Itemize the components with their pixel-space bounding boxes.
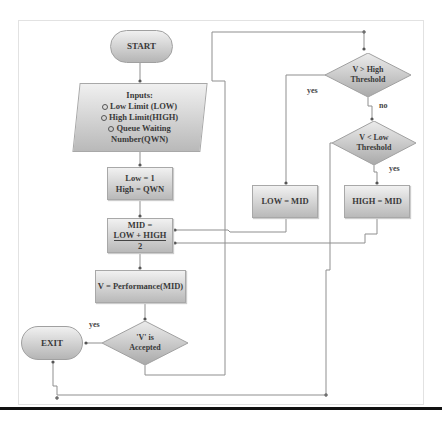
low-threshold-line1: V < Low (359, 133, 388, 143)
inputs-parallelogram: Inputs: Low Limit (LOW) High Limit(HIGH)… (72, 83, 207, 152)
input-item-low-limit: Low Limit (LOW) (102, 101, 177, 112)
performance-process-box: V = Performance(MID) (95, 270, 186, 303)
start-terminator: START (110, 30, 173, 63)
input-item-qwn: Number(QWN) (111, 134, 168, 145)
low-threshold-decision: V < Low Threshold (332, 121, 416, 165)
performance-label: V = Performance(MID) (98, 281, 183, 292)
mid-line1: MID = (128, 220, 152, 230)
edge-label-low-yes: yes (389, 164, 400, 173)
mid-process-box: MID = LOW + HIGH 2 (107, 218, 173, 253)
high-threshold-line2: Threshold (351, 75, 386, 85)
init-process-box: Low = 1 High = QWN (107, 167, 173, 200)
init-line1: Low = 1 (125, 173, 154, 184)
exit-terminator: EXIT (21, 326, 83, 360)
init-line2: High = QWN (116, 184, 164, 195)
inputs-title: Inputs: (127, 90, 153, 101)
accepted-line2: Accepted (129, 343, 161, 353)
low-eq-mid-label: LOW = MID (261, 196, 308, 207)
edge-label-high-yes: yes (307, 86, 318, 95)
input-item-high-limit: High Limit(HIGH) (101, 112, 178, 123)
high-threshold-decision: V > High Threshold (325, 53, 411, 97)
bullet-icon (109, 126, 115, 132)
low-eq-mid-process-box: LOW = MID (252, 185, 318, 218)
bottom-rule-divider (0, 407, 442, 410)
start-label: START (127, 41, 156, 52)
high-eq-mid-label: HIGH = MID (352, 196, 402, 207)
bullet-icon (102, 104, 108, 110)
edge-label-high-no: no (379, 101, 387, 110)
input-item-queue-waiting: Queue Waiting (109, 123, 171, 134)
exit-label: EXIT (41, 338, 63, 349)
accepted-line1: 'V' is (136, 333, 154, 343)
mid-numerator: LOW + HIGH (114, 230, 167, 241)
high-threshold-line1: V > High (352, 65, 383, 75)
mid-denominator: 2 (138, 241, 142, 251)
bullet-icon (101, 115, 107, 121)
accepted-decision: 'V' is Accepted (102, 321, 188, 365)
high-eq-mid-process-box: HIGH = MID (344, 185, 410, 218)
edge-label-accepted-yes: yes (89, 320, 100, 329)
low-threshold-line2: Threshold (357, 143, 392, 153)
